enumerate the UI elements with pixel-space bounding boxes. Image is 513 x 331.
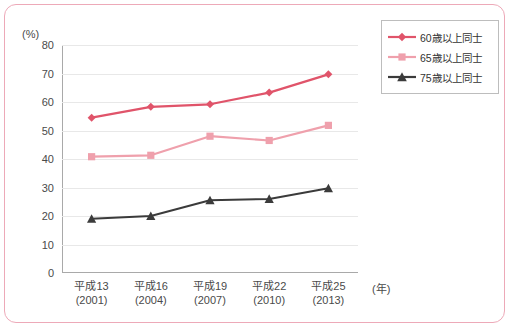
y-axis-unit-label: (%) xyxy=(22,28,39,40)
y-axis-tick-label: 10 xyxy=(42,240,54,251)
legend-marker-square-icon xyxy=(387,49,417,65)
legend-item-label: 60歳以上同士 xyxy=(417,30,482,45)
x-tick-era: 平成19 xyxy=(193,279,227,293)
legend-marker-triangle-icon xyxy=(387,69,417,85)
data-point-marker xyxy=(325,122,332,129)
legend-item-label: 65歳以上同士 xyxy=(417,50,482,65)
x-tick-era: 平成25 xyxy=(311,279,345,293)
data-point-marker xyxy=(88,153,95,160)
x-axis-tick-label: 平成22(2010) xyxy=(252,279,286,307)
x-axis-tick-labels: 平成13(2001)平成16(2004)平成19(2007)平成22(2010)… xyxy=(62,279,358,323)
x-tick-era: 平成16 xyxy=(134,279,168,293)
data-point-marker xyxy=(206,133,213,140)
y-axis-tick-label: 20 xyxy=(42,211,54,222)
chart-legend: 60歳以上同士 65歳以上同士 75歳以上同士 xyxy=(381,20,499,94)
data-point-marker xyxy=(266,137,273,144)
x-tick-western-year: (2013) xyxy=(311,293,345,307)
data-point-marker xyxy=(265,89,273,97)
x-tick-era: 平成22 xyxy=(252,279,286,293)
data-point-marker xyxy=(324,70,332,78)
x-axis-tick-label: 平成25(2013) xyxy=(311,279,345,307)
y-axis-tick-label: 60 xyxy=(42,97,54,108)
y-axis-tick-label: 50 xyxy=(42,126,54,137)
series-line xyxy=(92,74,329,117)
legend-item: 75歳以上同士 xyxy=(387,67,492,87)
series-line xyxy=(92,125,329,156)
x-axis-tick-label: 平成16(2004) xyxy=(134,279,168,307)
y-axis-tick-label: 70 xyxy=(42,69,54,80)
data-point-marker xyxy=(147,152,154,159)
y-axis-tick-label: 30 xyxy=(42,183,54,194)
x-axis-unit-label: (年) xyxy=(372,280,390,296)
y-axis-tick-label: 40 xyxy=(42,154,54,165)
legend-marker-diamond-icon xyxy=(387,29,417,45)
y-axis-tick-labels: 80706050403020100 xyxy=(18,45,54,273)
x-tick-western-year: (2004) xyxy=(134,293,168,307)
series-layer xyxy=(62,45,358,273)
y-axis-tick-label: 0 xyxy=(48,268,54,279)
x-axis-tick-label: 平成19(2007) xyxy=(193,279,227,307)
chart-screenshot: (%) (年) 80706050403020100 平成13(2001)平成16… xyxy=(0,0,513,331)
data-point-marker xyxy=(147,103,155,111)
plot-area xyxy=(62,45,358,273)
x-axis-tick-label: 平成13(2001) xyxy=(74,279,108,307)
legend-item: 65歳以上同士 xyxy=(387,47,492,67)
x-tick-era: 平成13 xyxy=(74,279,108,293)
data-point-marker xyxy=(88,114,96,122)
y-axis-tick-label: 80 xyxy=(42,40,54,51)
x-tick-western-year: (2010) xyxy=(252,293,286,307)
data-point-marker xyxy=(206,100,214,108)
legend-item: 60歳以上同士 xyxy=(387,27,492,47)
x-tick-western-year: (2001) xyxy=(74,293,108,307)
x-tick-western-year: (2007) xyxy=(193,293,227,307)
legend-item-label: 75歳以上同士 xyxy=(417,70,482,85)
